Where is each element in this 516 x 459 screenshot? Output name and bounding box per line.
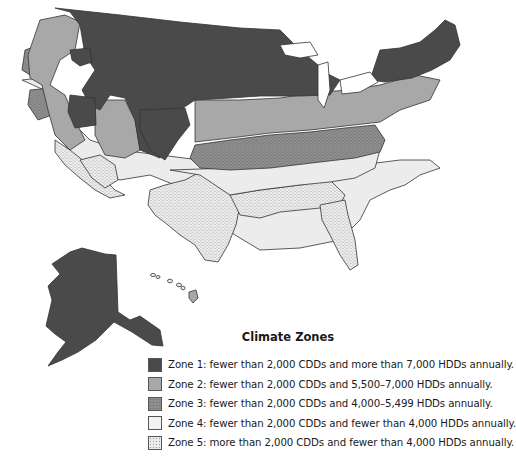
hawaii — [151, 273, 199, 303]
legend-label: Zone 2: fewer than 2,000 CDDs and 5,500–… — [168, 379, 493, 390]
zone5-swatch — [148, 436, 162, 450]
zone2-swatch — [148, 377, 162, 391]
zone1-newengland — [370, 20, 460, 82]
legend-title: Climate Zones — [188, 330, 388, 344]
legend-label: Zone 5: more than 2,000 CDDs and fewer t… — [168, 437, 514, 448]
legend-item-zone3: Zone 3: fewer than 2,000 CDDs and 4,000–… — [148, 394, 488, 414]
legend-item-zone1: Zone 1: fewer than 2,000 CDDs and more t… — [148, 355, 488, 375]
zone3-swatch — [148, 397, 162, 411]
zone4-swatch — [148, 416, 162, 430]
legend-label: Zone 1: fewer than 2,000 CDDs and more t… — [168, 359, 514, 370]
legend-item-zone4: Zone 4: fewer than 2,000 CDDs and fewer … — [148, 414, 488, 434]
zone1-oregon-cascades — [70, 48, 92, 66]
alaska — [46, 248, 163, 366]
legend-label: Zone 3: fewer than 2,000 CDDs and 4,000–… — [168, 398, 493, 409]
zone1-swatch — [148, 358, 162, 372]
legend-item-zone2: Zone 2: fewer than 2,000 CDDs and 5,500–… — [148, 375, 488, 395]
legend-item-zone5: Zone 5: more than 2,000 CDDs and fewer t… — [148, 433, 488, 453]
legend-label: Zone 4: fewer than 2,000 CDDs and fewer … — [168, 418, 516, 429]
legend: Climate Zones Zone 1: fewer than 2,000 C… — [148, 330, 488, 453]
